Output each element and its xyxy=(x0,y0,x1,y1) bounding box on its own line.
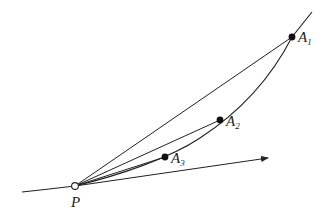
secant-line-p-a2 xyxy=(75,120,220,186)
point-a1 xyxy=(289,34,296,41)
point-a2 xyxy=(217,117,224,124)
label-p: P xyxy=(70,194,80,210)
curve xyxy=(22,12,312,192)
secant-tangent-diagram: P A1 A2 A3 xyxy=(0,0,325,213)
secant-line-p-a3 xyxy=(75,157,165,186)
label-a3: A3 xyxy=(170,150,185,168)
label-a1: A1 xyxy=(297,29,312,47)
point-a3 xyxy=(162,154,169,161)
label-a2: A2 xyxy=(225,113,240,131)
point-p xyxy=(72,183,79,190)
